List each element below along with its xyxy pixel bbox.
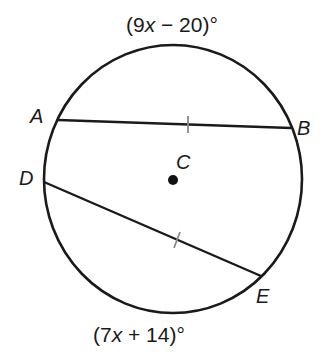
- arc-label-bottom: (7x + 14)°: [93, 323, 185, 346]
- arc-label-top-rest: − 20)°: [155, 13, 218, 36]
- point-label-c: C: [176, 151, 191, 173]
- center-point-c: [168, 175, 178, 185]
- arc-label-top: (9x − 20)°: [126, 13, 218, 36]
- point-label-d: D: [19, 167, 33, 189]
- chord-de: [44, 182, 261, 276]
- arc-label-top-open: (9: [126, 13, 145, 36]
- point-label-e: E: [256, 285, 270, 307]
- arc-label-bottom-open: (7: [93, 323, 112, 346]
- circle-chords-diagram: A B C D E (9x − 20)° (7x + 14)°: [0, 0, 322, 359]
- point-label-a: A: [29, 105, 43, 127]
- point-label-b: B: [297, 117, 310, 139]
- arc-label-bottom-rest: + 14)°: [122, 323, 185, 346]
- chord-ab: [58, 120, 291, 128]
